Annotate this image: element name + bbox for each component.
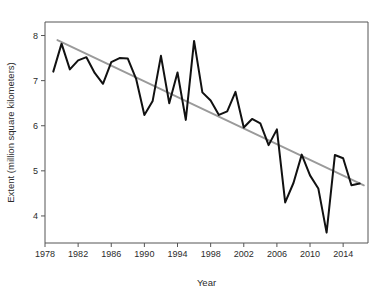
y-tick-label: 6 [33, 121, 38, 131]
line-chart-svg: 1978198219861990199419982002200620102014… [0, 0, 385, 291]
x-tick-label: 1978 [35, 249, 55, 259]
x-tick-label: 2010 [300, 249, 320, 259]
x-tick-label: 2006 [267, 249, 287, 259]
x-tick-label: 1982 [68, 249, 88, 259]
x-tick-label: 2014 [333, 249, 353, 259]
x-tick-label: 1998 [201, 249, 221, 259]
y-tick-label: 8 [33, 31, 38, 41]
chart-background [0, 0, 385, 291]
y-tick-label: 4 [33, 211, 38, 221]
y-axis-title: Extent (million square kilometers) [5, 62, 16, 202]
y-tick-label: 5 [33, 166, 38, 176]
chart-figure: 1978198219861990199419982002200620102014… [0, 0, 385, 291]
x-axis-title: Year [197, 277, 216, 288]
x-tick-label: 2002 [234, 249, 254, 259]
x-tick-label: 1990 [134, 249, 154, 259]
y-tick-label: 7 [33, 76, 38, 86]
x-tick-label: 1994 [167, 249, 187, 259]
x-tick-label: 1986 [101, 249, 121, 259]
